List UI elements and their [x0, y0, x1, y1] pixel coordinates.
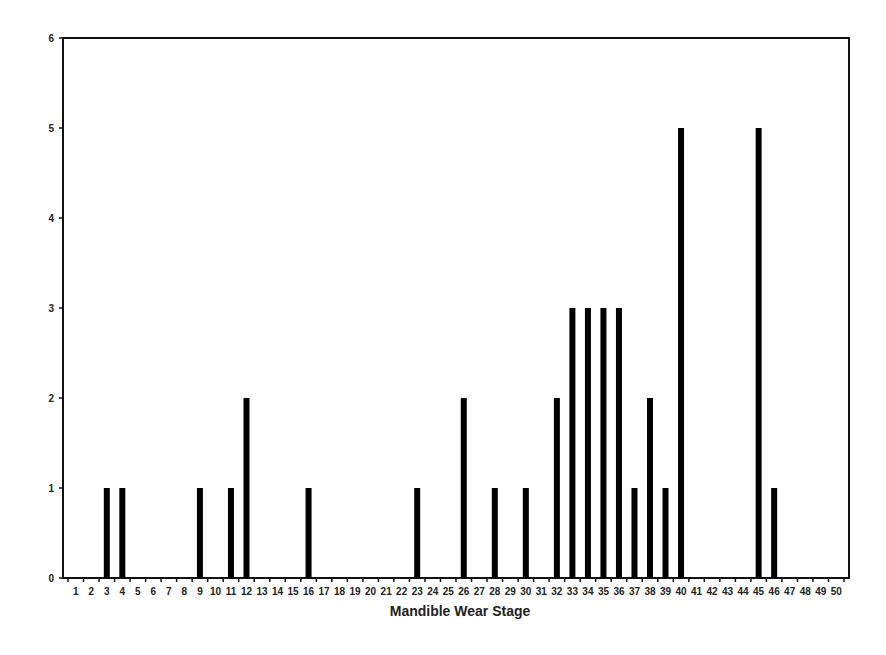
y-tick-label: 6: [48, 33, 54, 44]
y-tick-label: 1: [48, 483, 54, 494]
y-tick-label: 5: [48, 123, 54, 134]
x-tick-label: 41: [691, 586, 703, 597]
plot-area-border: [63, 38, 849, 578]
x-tick-label: 22: [396, 586, 408, 597]
x-tick-label: 32: [551, 586, 563, 597]
x-tick-label: 37: [629, 586, 641, 597]
x-tick-label: 38: [644, 586, 656, 597]
bar-stage-4: [119, 488, 125, 578]
x-tick-label: 2: [88, 586, 94, 597]
bar-stage-34: [585, 308, 591, 578]
x-tick-label: 47: [784, 586, 796, 597]
x-tick-label: 27: [474, 586, 486, 597]
x-tick-label: 14: [272, 586, 284, 597]
bar-stage-9: [197, 488, 203, 578]
x-tick-label: 10: [210, 586, 222, 597]
x-tick-label: 29: [505, 586, 517, 597]
x-axis: 1234567891011121314151617181920212223242…: [68, 578, 844, 597]
x-tick-label: 18: [334, 586, 346, 597]
bar-stage-33: [569, 308, 575, 578]
x-tick-label: 9: [197, 586, 203, 597]
x-axis-label: Mandible Wear Stage: [390, 603, 531, 619]
x-tick-label: 40: [675, 586, 687, 597]
bar-stage-30: [523, 488, 529, 578]
x-tick-label: 45: [753, 586, 765, 597]
bar-stage-16: [306, 488, 312, 578]
x-tick-label: 24: [427, 586, 439, 597]
bars: [104, 128, 777, 578]
bar-stage-38: [647, 398, 653, 578]
y-axis: 0123456: [48, 33, 63, 584]
bar-stage-28: [492, 488, 498, 578]
plot-frame: [63, 38, 849, 578]
bar-stage-36: [616, 308, 622, 578]
x-tick-label: 35: [598, 586, 610, 597]
bar-stage-23: [414, 488, 420, 578]
bar-stage-45: [756, 128, 762, 578]
x-tick-label: 42: [707, 586, 719, 597]
x-tick-label: 7: [166, 586, 172, 597]
x-tick-label: 36: [613, 586, 625, 597]
x-tick-label: 23: [412, 586, 424, 597]
x-tick-label: 13: [256, 586, 268, 597]
x-tick-label: 1: [73, 586, 79, 597]
x-tick-label: 43: [722, 586, 734, 597]
x-tick-label: 50: [831, 586, 843, 597]
x-tick-label: 21: [381, 586, 393, 597]
x-tick-label: 39: [660, 586, 672, 597]
x-tick-label: 6: [151, 586, 157, 597]
x-tick-label: 26: [458, 586, 470, 597]
bar-stage-3: [104, 488, 110, 578]
x-tick-label: 3: [104, 586, 110, 597]
x-tick-label: 19: [350, 586, 362, 597]
x-tick-label: 16: [303, 586, 315, 597]
y-tick-label: 0: [48, 573, 54, 584]
y-tick-label: 4: [48, 213, 54, 224]
x-tick-label: 28: [489, 586, 501, 597]
bar-stage-46: [771, 488, 777, 578]
x-tick-label: 30: [520, 586, 532, 597]
x-tick-label: 17: [319, 586, 331, 597]
bar-stage-39: [663, 488, 669, 578]
x-tick-label: 4: [120, 586, 126, 597]
x-tick-label: 20: [365, 586, 377, 597]
bar-stage-11: [228, 488, 234, 578]
x-tick-label: 25: [443, 586, 455, 597]
bar-stage-35: [600, 308, 606, 578]
x-tick-label: 31: [536, 586, 548, 597]
y-tick-label: 3: [48, 303, 54, 314]
y-tick-label: 2: [48, 393, 54, 404]
x-tick-label: 33: [567, 586, 579, 597]
bar-chart: 0123456 12345678910111213141516171819202…: [0, 0, 886, 655]
x-tick-label: 46: [769, 586, 781, 597]
bar-stage-12: [243, 398, 249, 578]
x-tick-label: 49: [815, 586, 827, 597]
x-tick-label: 12: [241, 586, 253, 597]
x-tick-label: 8: [182, 586, 188, 597]
x-tick-label: 11: [226, 586, 237, 597]
x-tick-label: 34: [582, 586, 594, 597]
bar-stage-26: [461, 398, 467, 578]
bar-stage-40: [678, 128, 684, 578]
x-tick-label: 5: [135, 586, 141, 597]
bar-stage-37: [631, 488, 637, 578]
x-tick-label: 48: [800, 586, 812, 597]
x-tick-label: 15: [287, 586, 299, 597]
x-tick-label: 44: [738, 586, 750, 597]
bar-stage-32: [554, 398, 560, 578]
